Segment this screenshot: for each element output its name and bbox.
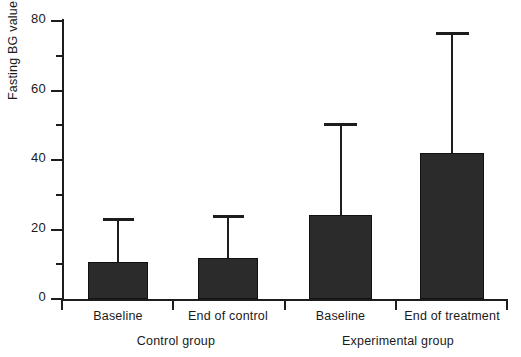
x-axis-category-label: Baseline — [93, 309, 143, 324]
y-axis-tick-major: 60 — [51, 90, 64, 92]
x-axis-category-label: End of control — [188, 309, 268, 324]
x-axis-tick — [395, 299, 397, 310]
y-tick-mark — [51, 159, 64, 161]
x-axis-tick — [172, 299, 174, 310]
error-bar-cap — [324, 123, 357, 126]
y-axis-tick-major: 80 — [51, 20, 64, 22]
x-axis-tick — [506, 299, 508, 310]
x-axis-category-label: Baseline — [316, 309, 366, 324]
error-bar-stem — [340, 123, 342, 215]
bar — [309, 215, 372, 299]
y-axis-title: Fasting BG value (%) — [6, 0, 21, 100]
bar — [88, 262, 148, 299]
error-bar-stem — [451, 32, 453, 153]
x-axis-group-label: Experimental group — [342, 334, 454, 349]
y-axis-tick-minor — [56, 263, 64, 265]
x-axis-group-label: Control group — [137, 334, 215, 349]
y-axis-tick-minor — [56, 55, 64, 57]
bar-chart: Fasting BG value (%) 020406080 BaselineE… — [0, 0, 521, 357]
y-tick-mark — [51, 90, 64, 92]
y-axis-tick-minor — [56, 124, 64, 126]
error-bar-cap — [213, 215, 244, 218]
y-tick-mark — [51, 229, 64, 231]
x-axis-category-label: End of treatment — [404, 309, 500, 324]
y-axis-tick-major: 20 — [51, 229, 64, 231]
bar — [198, 258, 258, 299]
error-bar-stem — [117, 218, 119, 262]
y-tick-mark — [51, 20, 64, 22]
x-axis-tick — [61, 299, 63, 310]
bar — [420, 153, 484, 299]
y-tick-label: 40 — [31, 150, 46, 166]
x-axis-tick — [284, 299, 286, 310]
y-tick-label: 20 — [31, 220, 46, 236]
y-axis-tick-minor — [56, 194, 64, 196]
error-bar-stem — [227, 215, 229, 258]
error-bar-cap — [103, 218, 134, 221]
y-axis-tick-major: 40 — [51, 159, 64, 161]
y-tick-label: 80 — [31, 11, 46, 27]
y-tick-label: 0 — [38, 289, 46, 305]
y-tick-label: 60 — [31, 81, 46, 97]
error-bar-cap — [436, 32, 469, 35]
